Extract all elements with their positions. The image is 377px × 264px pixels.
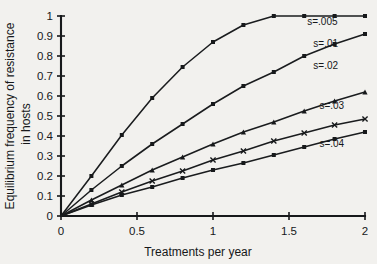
x-tick-label: 0	[58, 225, 64, 237]
x-axis-title: Treatments per year	[144, 245, 252, 259]
data-point-marker	[363, 32, 367, 36]
data-point-marker	[89, 174, 93, 178]
data-point-marker	[120, 193, 124, 197]
data-point-marker	[89, 188, 93, 192]
x-tick-label: 0.5	[129, 225, 145, 237]
y-tick-label: 0.4	[37, 130, 54, 142]
data-point-marker	[241, 84, 245, 88]
y-tick-label: 0.8	[37, 50, 53, 62]
data-point-marker	[119, 182, 124, 187]
data-point-marker	[181, 122, 185, 126]
data-point-marker	[302, 54, 306, 58]
y-tick-label: 0	[47, 210, 53, 222]
series-annotation: s=.01	[313, 38, 338, 49]
data-point-marker	[150, 185, 154, 189]
y-tick-label: 0.6	[37, 90, 53, 102]
series-line	[61, 119, 365, 216]
y-tick-label: 0.5	[37, 110, 53, 122]
series-annotation: s=.005	[307, 16, 338, 27]
data-point-marker	[363, 130, 367, 134]
series-annotation: s=.02	[313, 60, 338, 71]
data-point-marker	[89, 203, 93, 207]
data-point-marker	[241, 23, 245, 27]
y-tick-label: 0.2	[37, 170, 53, 182]
y-axis-title-line2: in hosts	[19, 103, 33, 144]
data-point-marker	[150, 142, 154, 146]
y-tick-label: 0.1	[37, 190, 53, 202]
y-tick-label: 0.7	[37, 70, 53, 82]
series-annotation: s=.03	[319, 100, 344, 111]
data-point-marker	[302, 14, 306, 18]
y-tick-label: 0.3	[37, 150, 53, 162]
data-point-marker	[363, 14, 367, 18]
x-tick-label: 1.5	[281, 225, 297, 237]
data-point-marker	[150, 96, 154, 100]
data-point-marker	[211, 102, 215, 106]
y-tick-label: 1	[47, 10, 53, 22]
chart-canvas: 00.10.20.30.40.50.60.70.80.9100.511.52Tr…	[0, 0, 377, 264]
y-tick-label: 0.9	[37, 30, 53, 42]
data-point-marker	[272, 153, 276, 157]
data-point-marker	[211, 168, 215, 172]
x-tick-label: 2	[362, 225, 368, 237]
data-point-marker	[272, 70, 276, 74]
data-point-marker	[120, 164, 124, 168]
series-annotation: s=.04	[319, 138, 344, 149]
data-point-marker	[181, 176, 185, 180]
data-point-marker	[211, 40, 215, 44]
x-tick-label: 1	[210, 225, 216, 237]
y-axis-title-line1: Equilibrium frequency of resistance	[3, 22, 17, 209]
series-s-03	[61, 116, 368, 216]
data-point-marker	[241, 161, 245, 165]
data-point-marker	[302, 145, 306, 149]
chart-figure: 00.10.20.30.40.50.60.70.80.9100.511.52Tr…	[0, 0, 377, 264]
data-point-marker	[181, 65, 185, 69]
data-point-marker	[272, 14, 276, 18]
data-point-marker	[120, 133, 124, 137]
